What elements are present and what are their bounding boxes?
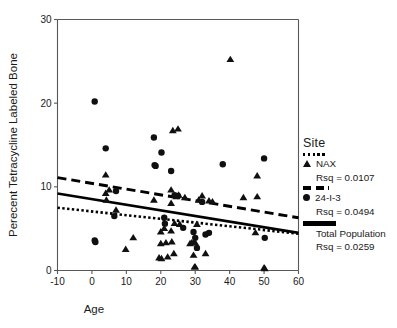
x-axis-title: Age [84,303,104,315]
data-point-triangle [129,234,137,240]
data-point-circle [103,145,109,151]
data-point-circle [162,220,168,226]
x-tick-label: -10 [50,276,65,287]
data-point-circle [194,245,200,251]
legend-entry-24i3: 24-I-3 [303,191,397,204]
data-point-circle [190,229,196,235]
legend-label-24i3: 24-I-3 [315,192,341,203]
data-point-triangle [202,250,210,256]
legend-label-nax: NAX [316,158,336,169]
data-point-triangle [193,221,201,227]
data-point-circle [180,225,186,231]
data-point-circle [175,193,181,199]
data-point-circle [261,155,267,161]
regression-line-solid [58,194,299,233]
data-point-triangle [170,250,178,256]
circle-marker-icon [303,194,310,201]
legend-rsq-24i3: Rsq = 0.0494 [316,206,397,217]
data-point-circle [152,163,158,169]
x-tick-label: 20 [155,276,167,287]
data-point-circle [161,215,167,221]
data-point-triangle [168,238,176,244]
data-point-circle [262,235,268,241]
y-tick-label: 20 [40,98,52,109]
y-axis-title: Perecent Tetracycline Labeled Bone [7,53,19,237]
data-point-triangle [253,193,261,199]
data-point-triangle [122,246,130,252]
legend-label-total-population: Total Population [316,228,397,239]
data-point-triangle [226,56,234,62]
data-point-triangle [112,206,120,212]
data-point-triangle [150,196,158,202]
data-point-triangle [102,196,110,202]
x-tick-label: 10 [121,276,133,287]
x-tick-label: 60 [293,276,305,287]
x-tick-label: 0 [89,276,95,287]
data-point-circle [111,213,117,219]
legend-title: Site [303,136,397,150]
data-points-group [91,56,268,272]
x-tick-label: 50 [259,276,271,287]
legend: Site NAX Rsq = 0.0107 24-I-3 Rsq = 0.049… [303,136,397,253]
data-point-triangle [240,194,248,200]
legend-swatch-dotted-line [303,153,325,156]
data-point-triangle [102,171,110,177]
y-tick-label: 30 [40,14,52,25]
legend-swatch-solid-line [303,221,336,226]
scatter-plot-figure: 0102030-100102030405060 AgePerecent Tetr… [0,0,397,328]
data-point-triangle [174,125,182,131]
data-point-triangle [198,192,206,198]
y-tick-label: 0 [46,265,52,276]
data-point-circle [113,188,119,194]
data-point-triangle [190,251,198,257]
triangle-marker-icon [303,160,311,167]
data-point-circle [158,149,164,155]
data-point-triangle [167,200,175,206]
legend-entry-nax: NAX [303,157,397,170]
data-point-triangle [253,172,261,178]
axes-group: 0102030-100102030405060 [40,14,304,286]
data-point-circle [168,168,174,174]
legend-swatch-dashed-line [303,186,329,190]
x-tick-label: 30 [190,276,202,287]
legend-rsq-nax: Rsq = 0.0107 [316,172,397,183]
data-point-circle [206,230,212,236]
data-point-triangle [191,263,199,269]
data-point-circle [151,134,157,140]
data-point-circle [192,235,198,241]
legend-rsq-total-population: Rsq = 0.0259 [316,241,397,252]
data-point-triangle [167,227,175,233]
data-point-triangle [167,186,175,192]
data-point-triangle [164,253,172,259]
data-point-circle [220,161,226,167]
regression-line-dotted [58,208,299,234]
data-point-circle [91,98,97,104]
x-tick-label: 40 [224,276,236,287]
data-point-circle [199,199,205,205]
data-point-circle [92,239,98,245]
y-tick-label: 10 [40,181,52,192]
axis-frame [58,20,299,271]
